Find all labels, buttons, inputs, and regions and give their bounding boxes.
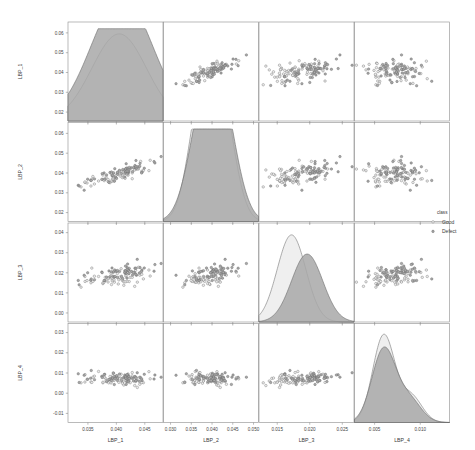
scatter-point [309, 172, 312, 175]
scatter-point [273, 382, 276, 385]
scatter-point [160, 155, 163, 158]
legend-marker-good[interactable] [432, 221, 435, 224]
scatter-point [294, 66, 297, 69]
x-tick-label: 0.015 [271, 427, 283, 432]
scatter-point [141, 273, 144, 276]
scatter-point [225, 383, 228, 386]
scatter-point [320, 68, 323, 71]
scatter-point [107, 178, 110, 181]
scatter-point [337, 67, 340, 70]
scatter-point [380, 276, 383, 279]
scatter-point [206, 374, 209, 377]
scatter-point [367, 276, 370, 279]
scatter-point [392, 160, 395, 163]
y-tick-label: 0.02 [55, 271, 64, 276]
y-axis-label-lbp_4: LBP_4 [17, 365, 23, 381]
scatter-point [116, 269, 119, 272]
scatter-point [284, 76, 287, 79]
y-tick-label: 0.03 [55, 90, 64, 95]
scatter-point [154, 374, 157, 377]
legend-label-defect[interactable]: Defect [442, 228, 457, 234]
scatter-point [215, 373, 218, 376]
scatter-point [412, 181, 415, 184]
scatter-point [289, 80, 292, 83]
scatter-point [296, 73, 299, 76]
scatter-point [194, 383, 197, 386]
scatter-point [301, 374, 304, 377]
scatter-point [125, 383, 128, 386]
scatter-point [400, 262, 403, 265]
scatter-point [400, 179, 403, 182]
scatter-point [208, 283, 211, 286]
scatter-point [392, 277, 395, 280]
scatter-point [148, 269, 151, 272]
scatter-point [389, 278, 392, 281]
scatter-point [133, 285, 136, 288]
scatter-point [219, 281, 222, 284]
scatter-point [108, 181, 111, 184]
scatter-point [411, 170, 414, 173]
scatter-point [302, 64, 305, 67]
scatter-point [190, 279, 193, 282]
scatter-point [399, 172, 402, 175]
legend-marker-defect[interactable] [432, 230, 435, 233]
scatter-point [392, 58, 395, 61]
scatter-point [184, 381, 187, 384]
scatter-point [124, 265, 127, 268]
x-tick-label: 0.025 [337, 427, 349, 432]
scatter-point [135, 273, 138, 276]
scatter-point [414, 70, 417, 73]
scatter-point [278, 386, 281, 389]
scatter-point [295, 180, 298, 183]
scatter-point [93, 178, 96, 181]
scatter-point [237, 275, 240, 278]
scatter-point [223, 267, 226, 270]
scatter-point [318, 62, 321, 64]
scatter-point [399, 271, 402, 274]
scatter-point [93, 378, 96, 381]
scatter-point [409, 174, 412, 177]
scatter-point [404, 171, 407, 174]
scatter-point [305, 65, 308, 68]
scatter-point [326, 380, 329, 383]
scatter-point [183, 80, 186, 83]
scatter-point [425, 269, 428, 272]
scatter-point [318, 167, 321, 170]
scatter-point [230, 383, 233, 386]
scatter-point [123, 284, 126, 287]
scatter-point [399, 159, 402, 162]
scatter-point [83, 189, 86, 192]
scatter-point [297, 172, 300, 175]
scatter-point [124, 176, 127, 179]
scatter-point [373, 278, 376, 281]
scatter-point [136, 281, 139, 284]
scatter-point [230, 270, 233, 273]
x-tick-label: 0.045 [139, 427, 151, 432]
scatter-point [115, 177, 118, 180]
scatter-point [324, 62, 327, 65]
scatter-point [426, 275, 429, 278]
x-tick-label: 0.010 [415, 427, 427, 432]
scatter-point [410, 162, 413, 165]
scatter-point [284, 85, 287, 88]
x-tick-label: 0.035 [186, 427, 198, 432]
scatter-point [323, 67, 326, 70]
scatter-point [269, 84, 272, 87]
scatter-point [297, 176, 300, 179]
scatter-point [232, 263, 235, 266]
scatter-point [322, 70, 325, 73]
scatter-point [143, 373, 146, 376]
scatter-point [224, 273, 227, 276]
scatter-point [297, 379, 300, 382]
scatter-point [376, 284, 379, 287]
scatter-point [385, 67, 388, 70]
scatter-point [195, 80, 198, 83]
scatter-point [306, 172, 309, 175]
scatter-point [276, 381, 279, 384]
scatter-point [400, 281, 403, 284]
scatter-point [379, 67, 382, 70]
legend-label-good[interactable]: Good [442, 219, 454, 225]
scatter-point [216, 370, 219, 373]
scatter-point [362, 65, 365, 68]
scatter-point [227, 65, 230, 68]
